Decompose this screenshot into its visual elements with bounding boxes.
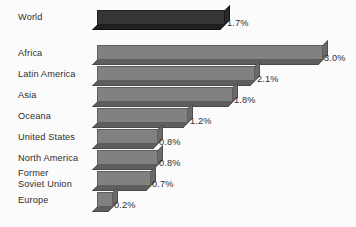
bar [92,129,159,150]
bar [92,192,114,213]
category-label: Oceana [18,111,51,122]
category-label: Asia [18,90,36,101]
bar [92,87,234,108]
bar-bottom-face [92,102,233,107]
bar-bottom-face [92,144,158,149]
bar-front-face [97,171,151,186]
bar-value-label: 3.0% [324,53,346,63]
bar-value-label: 2.1% [257,74,279,84]
bar-value-label: 1.2% [190,116,212,126]
bar-bottom-face [92,186,151,191]
bar-value-label: 1.7% [227,18,249,28]
category-label: United States [18,132,75,143]
category-label: Africa [18,48,42,59]
bar-value-label: 0.8% [159,158,181,168]
bar-bottom-face [92,25,225,30]
category-label: North America [18,153,78,164]
bar-front-face [97,87,233,102]
bar [92,171,152,192]
category-label: World [18,12,43,23]
bar-front-face [97,192,113,207]
bar-bottom-face [92,123,188,128]
bar-bottom-face [92,81,255,86]
bar [92,10,226,31]
bar-front-face [97,45,323,60]
bar-front-face [97,108,188,123]
category-label: Europe [18,195,49,206]
bar-front-face [97,10,225,25]
bar-value-label: 0.7% [152,179,174,189]
bar-value-label: 0.2% [114,200,136,210]
bar-value-label: 1.8% [234,95,256,105]
bar [92,66,256,87]
bar [92,45,324,66]
category-label: Latin America [18,69,76,80]
bar-bottom-face [92,207,113,212]
bar-bottom-face [92,60,323,65]
bar-front-face [97,129,158,144]
bar [92,150,159,171]
bar-bottom-face [92,165,158,170]
bar-chart: World1.7%Africa3.0%Latin America2.1%Asia… [0,0,356,227]
bar [92,108,189,129]
bar-front-face [97,66,255,81]
category-label: Former Soviet Union [18,168,72,189]
bar-front-face [97,150,158,165]
